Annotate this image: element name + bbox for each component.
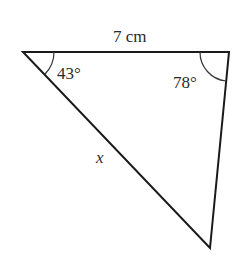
angle-arc-top-right xyxy=(200,52,226,81)
side-label-x: x xyxy=(95,148,104,167)
triangle-diagram: 7 cm 43° 78° x xyxy=(0,0,247,259)
angle-arc-top-left xyxy=(45,52,54,74)
triangle xyxy=(23,52,229,248)
angle-label-top-right: 78° xyxy=(173,73,197,92)
side-label-top: 7 cm xyxy=(113,27,147,46)
angle-label-top-left: 43° xyxy=(57,64,81,83)
